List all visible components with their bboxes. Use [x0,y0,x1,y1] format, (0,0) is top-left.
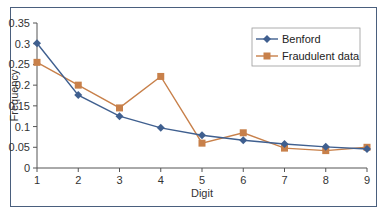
data-point [157,124,165,132]
line-chart: 00.050.10.150.20.250.30.35 123456789 Fre… [0,0,386,220]
data-point [157,73,164,80]
data-point [239,136,247,144]
x-tick-label: 3 [116,174,122,186]
x-ticks: 123456789 [34,168,370,186]
data-point [240,129,247,136]
data-point [75,82,82,89]
y-tick-label: 0.05 [9,141,30,153]
data-point [116,112,124,120]
x-tick-label: 2 [75,174,81,186]
y-tick-label: 0.3 [15,38,30,50]
x-tick-label: 9 [364,174,370,186]
legend: BenfordFraudulent data [252,28,360,66]
x-axis-title: Digit [191,187,213,199]
data-point [199,140,206,147]
y-tick-label: 0.25 [9,58,30,70]
legend-label: Fraudulent data [282,50,360,62]
x-tick-label: 5 [199,174,205,186]
x-tick-label: 4 [158,174,164,186]
x-tick-label: 6 [240,174,246,186]
data-point [116,104,123,111]
y-tick-label: 0 [24,162,30,174]
data-point [34,59,41,66]
x-tick-label: 7 [281,174,287,186]
x-tick-label: 1 [34,174,40,186]
y-axis-title: Frequency [8,69,20,121]
y-tick-label: 0.35 [9,17,30,29]
legend-marker [264,53,271,60]
legend-label: Benford [282,33,321,45]
x-tick-label: 8 [323,174,329,186]
series-fraudulent-data [34,59,371,154]
